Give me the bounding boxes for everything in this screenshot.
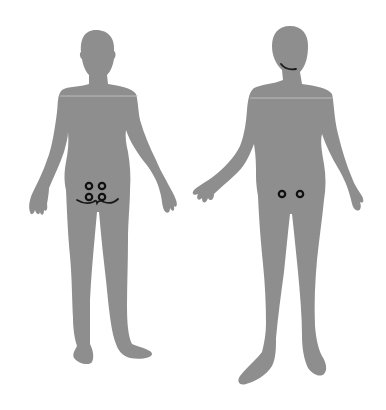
figure-right-silhouette bbox=[193, 26, 364, 385]
figure-right bbox=[193, 26, 364, 385]
figure-left-silhouette bbox=[29, 30, 177, 364]
figure-left bbox=[29, 30, 177, 364]
body-map-diagram bbox=[0, 0, 386, 410]
